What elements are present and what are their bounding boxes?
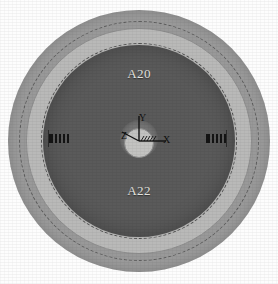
axis-label-z: Z <box>121 130 127 141</box>
region-label-a22: A22 <box>109 183 169 199</box>
right-edge-mark <box>206 134 228 143</box>
axis-label-x: X <box>163 134 170 145</box>
left-edge-mark <box>49 134 71 143</box>
axis-label-y: Y <box>139 112 146 123</box>
region-label-a20: A20 <box>109 66 169 82</box>
figure-canvas: A20 A22 X Y Z <box>0 0 278 284</box>
right-edge-mark-glyph <box>206 134 228 143</box>
left-edge-mark-glyph <box>49 134 71 143</box>
